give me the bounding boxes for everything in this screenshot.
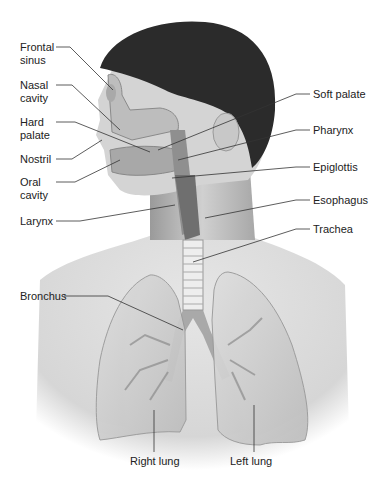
label-left-lung: Left lung: [230, 455, 272, 468]
label-frontal-sinus: Frontal sinus: [20, 41, 54, 67]
label-oral-cavity-line1: Oral: [20, 176, 48, 189]
frontal-sinus-shape: [106, 84, 116, 102]
trachea: [183, 240, 203, 310]
label-esophagus: Esophagus: [313, 194, 368, 207]
label-frontal-sinus-line1: Frontal: [20, 41, 54, 54]
label-nostril: Nostril: [20, 153, 51, 166]
label-pharynx: Pharynx: [313, 124, 353, 137]
label-epiglottis: Epiglottis: [313, 161, 358, 174]
label-frontal-sinus-line2: sinus: [20, 54, 54, 67]
respiratory-illustration: [0, 0, 369, 480]
label-bronchus: Bronchus: [20, 290, 66, 303]
label-nostril-text: Nostril: [20, 153, 51, 166]
label-bronchus-text: Bronchus: [20, 290, 66, 303]
label-hard-palate-line2: palate: [20, 129, 50, 142]
label-soft-palate: Soft palate: [313, 88, 366, 101]
label-oral-cavity: Oral cavity: [20, 176, 48, 202]
label-nasal-cavity-line2: cavity: [20, 92, 48, 105]
label-trachea: Trachea: [313, 223, 353, 236]
oral-cavity-section: [110, 146, 178, 175]
label-nasal-cavity: Nasal cavity: [20, 79, 48, 105]
label-hard-palate-line1: Hard: [20, 116, 50, 129]
label-right-lung: Right lung: [130, 455, 180, 468]
label-oral-cavity-line2: cavity: [20, 189, 48, 202]
label-larynx: Larynx: [20, 215, 53, 228]
label-nasal-cavity-line1: Nasal: [20, 79, 48, 92]
label-larynx-text: Larynx: [20, 215, 53, 228]
label-hard-palate: Hard palate: [20, 116, 50, 142]
